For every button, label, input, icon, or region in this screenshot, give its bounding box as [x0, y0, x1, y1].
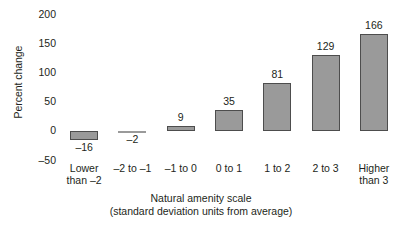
x-axis-title: Natural amenity scale (standard deviatio… [0, 192, 402, 218]
x-category-label: –2 to –1 [108, 162, 156, 174]
x-category-label-line: –2 to –1 [108, 162, 156, 174]
x-category-label: Lowerthan –2 [60, 162, 108, 186]
bar-group: –16 [60, 14, 108, 160]
x-category-label-line: 1 to 2 [253, 162, 301, 174]
bar-group: –2 [108, 14, 156, 160]
y-tick-label: 100 [26, 67, 56, 78]
x-category-label: 0 to 1 [205, 162, 253, 174]
bar-group: 129 [301, 14, 349, 160]
bar[interactable] [215, 110, 243, 130]
x-category-label: –1 to 0 [157, 162, 205, 174]
x-category-label-line: Lower [60, 162, 108, 174]
bar-value-label: 35 [223, 96, 235, 107]
bar-value-label: 129 [317, 41, 335, 52]
x-category-label: 2 to 3 [301, 162, 349, 174]
bar-group: 35 [205, 14, 253, 160]
bar-chart: Percent change 200150100500–50 –16–29358… [0, 0, 402, 232]
x-category-label: 1 to 2 [253, 162, 301, 174]
bar-value-label: 9 [178, 112, 184, 123]
bar-value-label: –16 [75, 142, 93, 153]
bar-value-label: 81 [271, 69, 283, 80]
bar-group: 9 [157, 14, 205, 160]
bar[interactable] [360, 34, 388, 131]
plot-area: –16–293581129166 [60, 14, 398, 160]
y-axis-title: Percent change [12, 27, 24, 137]
x-category-label-line: Higher [350, 162, 398, 174]
bar-group: 81 [253, 14, 301, 160]
bar[interactable] [312, 55, 340, 130]
y-tick-label: 50 [26, 96, 56, 107]
y-tick-label: 0 [26, 125, 56, 136]
x-axis-title-line2: (standard deviation units from average) [0, 205, 402, 218]
y-tick-label: –50 [26, 155, 56, 166]
bar-value-label: 166 [365, 20, 383, 31]
y-tick-label: 150 [26, 38, 56, 49]
x-category-label-line: 0 to 1 [205, 162, 253, 174]
bar-value-label: –2 [127, 134, 139, 145]
x-category-label-line: than –2 [60, 174, 108, 186]
x-axis-title-line1: Natural amenity scale [0, 192, 402, 205]
x-category-label: Higherthan 3 [350, 162, 398, 186]
x-category-label-line: 2 to 3 [301, 162, 349, 174]
y-tick-label: 200 [26, 9, 56, 20]
bar-group: 166 [350, 14, 398, 160]
x-axis-category-labels: Lowerthan –2–2 to –1–1 to 00 to 11 to 22… [60, 162, 398, 192]
x-category-label-line: –1 to 0 [157, 162, 205, 174]
bar[interactable] [167, 126, 195, 131]
bar[interactable] [70, 131, 98, 140]
bar[interactable] [263, 83, 291, 130]
x-category-label-line: than 3 [350, 174, 398, 186]
